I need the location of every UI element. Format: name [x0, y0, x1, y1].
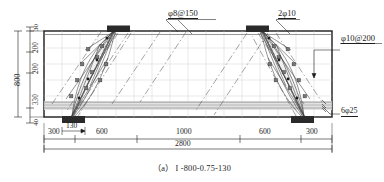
- beam-drawing-canvas: [0, 0, 384, 182]
- stirrup-side-label: φ10@200: [341, 34, 375, 44]
- support-plate-right: [291, 116, 314, 123]
- top-plate-right: [246, 26, 269, 33]
- hdim-value-300-left: 300: [48, 128, 60, 136]
- bottom-bars-label: 6φ25: [341, 107, 358, 117]
- hdim-value-600-left: 600: [96, 128, 108, 136]
- vdim-total-800: 800: [14, 73, 22, 86]
- vdim-value-30: 30: [33, 24, 40, 31]
- figure-caption: （a） I -800-0.75-130: [0, 161, 384, 173]
- stirrup-top-label: φ8@150: [168, 9, 198, 19]
- hdim-total-2800: 2800: [175, 140, 191, 148]
- hdim-value-600-right: 600: [259, 128, 271, 136]
- hdim-value-300-right: 300: [306, 128, 318, 136]
- beam-elevation-figure: φ8@150 2φ10 φ10@200 6φ25 30 200 200 330 …: [0, 0, 384, 182]
- vdim-value-200a: 200: [33, 42, 40, 53]
- top-bars-label: 2φ10: [278, 9, 296, 19]
- vdim-value-40: 40: [33, 119, 40, 126]
- top-plate-left: [107, 26, 130, 33]
- plate-width-value-130: 130: [66, 122, 77, 130]
- vdim-value-330: 330: [33, 94, 40, 105]
- hdim-value-1000: 1000: [176, 128, 192, 136]
- vdim-value-200b: 200: [33, 63, 40, 74]
